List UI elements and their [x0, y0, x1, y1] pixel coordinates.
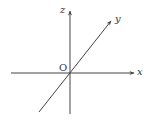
axes-drawing: [0, 0, 151, 123]
z-axis-label: z: [60, 5, 65, 15]
x-axis-label: x: [137, 67, 143, 77]
origin-label: O: [59, 63, 67, 73]
y-axis-label: y: [115, 14, 121, 24]
y-axis-line: [39, 21, 111, 112]
